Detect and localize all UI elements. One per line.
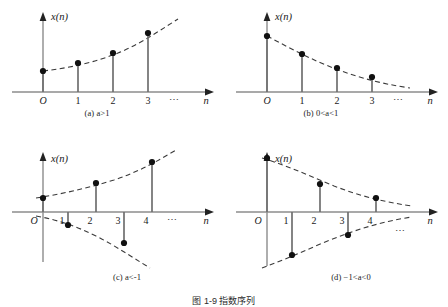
panel-a-envelope bbox=[43, 19, 178, 71]
panel-b-y-axis-label: x(n) bbox=[274, 11, 292, 23]
panel-b-x-axis-label: n bbox=[427, 95, 432, 106]
panel-d-caption: (d) −1<a<0 bbox=[244, 272, 448, 282]
panel-b-caption: (b) 0<a<1 bbox=[214, 108, 428, 118]
panel-c-x-axis-label: n bbox=[203, 215, 208, 226]
panel-c-sample-points bbox=[40, 159, 155, 246]
panel-b-origin-label: O bbox=[263, 95, 270, 106]
panel-a: O 1 2 3 ⋯ x(n) n (a) a>1 bbox=[10, 8, 224, 118]
panel-d-y-axis-label: x(n) bbox=[274, 153, 292, 165]
panel-b-sample-points bbox=[264, 33, 375, 80]
panel-a-stems bbox=[43, 33, 148, 92]
panel-b-envelope bbox=[267, 36, 410, 88]
panel-c-tick-3: 3 bbox=[116, 215, 121, 226]
panel-d-tick-2: 2 bbox=[312, 215, 317, 226]
panel-c-origin-label: O bbox=[30, 215, 37, 226]
panel-a-x-axis-label: n bbox=[203, 95, 208, 106]
panel-d-tick-1: 1 bbox=[284, 215, 289, 226]
panel-c-caption: (c) a<-1 bbox=[20, 272, 234, 282]
panel-b: O 1 2 3 ⋯ x(n) n (b) 0<a<1 bbox=[234, 8, 448, 118]
panel-a-sample-points bbox=[40, 30, 151, 74]
panel-c-ellipsis: ⋯ bbox=[167, 214, 177, 225]
panel-a-caption: (a) a>1 bbox=[0, 108, 204, 118]
panel-c-y-axis-label: x(n) bbox=[50, 153, 68, 165]
panel-d-envelope-upper bbox=[262, 158, 412, 206]
panel-a-tick-1: 1 bbox=[76, 95, 81, 106]
panel-d-ellipsis: ⋯ bbox=[395, 225, 405, 236]
panel-b-tick-1: 1 bbox=[300, 95, 305, 106]
panel-c-envelope-lower bbox=[36, 216, 150, 268]
panel-d-tick-3: 3 bbox=[340, 215, 345, 226]
figure-caption: 图 1-9 指数序列 bbox=[0, 294, 448, 307]
panel-b-tick-3: 3 bbox=[370, 95, 375, 106]
panel-d-x-axis-label: n bbox=[427, 215, 432, 226]
panel-b-tick-2: 2 bbox=[335, 95, 340, 106]
panel-a-y-axis-label: x(n) bbox=[50, 11, 68, 23]
panel-d-stems bbox=[267, 158, 376, 255]
panel-d: O 1 2 3 4 ⋯ x(n) n (d) −1<a<0 bbox=[234, 150, 448, 290]
panel-c: O 1 2 3 4 ⋯ x(n) n (c) a<-1 bbox=[10, 150, 224, 290]
panel-a-tick-2: 2 bbox=[111, 95, 116, 106]
panel-c-stems bbox=[43, 162, 152, 243]
panel-c-tick-1: 1 bbox=[60, 215, 65, 226]
panel-a-origin-label: O bbox=[39, 95, 46, 106]
panel-d-sample-points bbox=[264, 155, 379, 258]
panel-a-ellipsis: ⋯ bbox=[169, 94, 179, 105]
panel-d-tick-4: 4 bbox=[368, 215, 373, 226]
panel-c-tick-4: 4 bbox=[144, 215, 149, 226]
panel-d-origin-label: O bbox=[254, 215, 261, 226]
panel-c-tick-2: 2 bbox=[88, 215, 93, 226]
panel-b-ellipsis: ⋯ bbox=[393, 94, 403, 105]
panel-a-tick-3: 3 bbox=[146, 95, 151, 106]
